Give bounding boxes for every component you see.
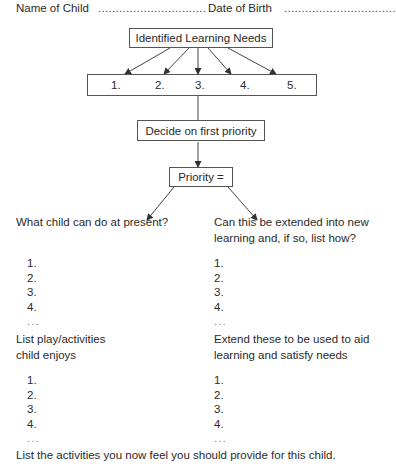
need-number-2: 2.	[155, 79, 165, 91]
list-item: 2.	[27, 388, 40, 403]
priority-box: Priority =	[169, 167, 233, 187]
aid-learning-heading-line1: Extend these to be used to aid	[214, 333, 369, 345]
extend-learning-heading-line1: Can this be extended into new	[214, 216, 369, 228]
extend-learning-heading-line2: learning and, if so, list how?	[214, 232, 356, 244]
learning-needs-title: Identified Learning Needs	[135, 32, 266, 44]
list-item: 4.	[27, 417, 40, 432]
footer-instruction: List the activities you now feel you sho…	[16, 449, 336, 461]
list-item-more: ...	[27, 431, 40, 446]
play-activities-heading-line2: child enjoys	[16, 349, 76, 361]
list-item-more: ...	[214, 431, 227, 446]
list-item-more: ...	[214, 314, 227, 329]
list-item: 2.	[214, 271, 227, 286]
play-activities-list: 1. 2. 3. 4. ...	[27, 373, 40, 446]
current-abilities-list: 1. 2. 3. 4. ...	[27, 256, 40, 329]
decide-priority-box: Decide on first priority	[137, 120, 265, 141]
list-item: 3.	[27, 285, 40, 300]
list-item: 3.	[27, 402, 40, 417]
learning-needs-title-box: Identified Learning Needs	[129, 28, 273, 48]
list-item: 4.	[27, 300, 40, 315]
needs-number-box: 1. 2. 3. 4. 5.	[87, 74, 317, 96]
list-item: 1.	[27, 373, 40, 388]
need-number-3: 3.	[195, 79, 205, 91]
list-item: 1.	[214, 256, 227, 271]
list-item: 2.	[214, 388, 227, 403]
list-item: 4.	[214, 300, 227, 315]
list-item-more: ...	[27, 314, 40, 329]
list-item: 1.	[214, 373, 227, 388]
current-abilities-heading: What child can do at present?	[16, 216, 168, 228]
priority-label: Priority =	[178, 171, 224, 183]
list-item: 3.	[214, 285, 227, 300]
need-number-1: 1.	[111, 79, 121, 91]
list-item: 4.	[214, 417, 227, 432]
aid-learning-list: 1. 2. 3. 4. ...	[214, 373, 227, 446]
decide-priority-label: Decide on first priority	[145, 125, 256, 137]
aid-learning-heading-line2: learning and satisfy needs	[214, 349, 348, 361]
list-item: 2.	[27, 271, 40, 286]
need-number-4: 4.	[240, 79, 250, 91]
list-item: 3.	[214, 402, 227, 417]
list-item: 1.	[27, 256, 40, 271]
extend-learning-list: 1. 2. 3. 4. ...	[214, 256, 227, 329]
need-number-5: 5.	[287, 79, 297, 91]
play-activities-heading-line1: List play/activities	[16, 333, 105, 345]
